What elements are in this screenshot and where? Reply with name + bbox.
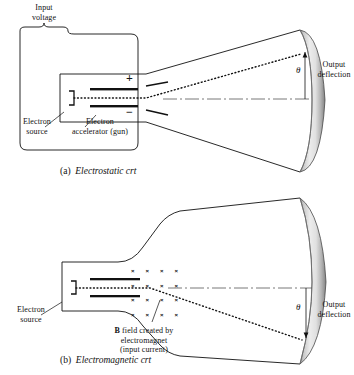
field-marker: × bbox=[131, 283, 135, 289]
screen-face bbox=[300, 30, 325, 172]
electron-source-symbol-b bbox=[71, 281, 76, 294]
cone-lower-edge bbox=[146, 122, 300, 172]
caption-b-tag: (b) bbox=[60, 355, 71, 365]
b-field-leader bbox=[152, 300, 160, 322]
field-marker: × bbox=[131, 312, 135, 318]
field-marker: × bbox=[175, 268, 179, 274]
lower-plate-lead bbox=[146, 110, 168, 115]
field-marker: × bbox=[175, 283, 179, 289]
b-field-line3: (input current) bbox=[120, 345, 168, 354]
electron-source-symbol bbox=[69, 91, 74, 105]
deflection-angle-label-b: θ bbox=[296, 303, 300, 312]
crt-figure: Inputvoltage + − Electronsource Electron… bbox=[0, 0, 354, 375]
upper-accelerator-plate-b bbox=[90, 278, 140, 280]
upper-plate-lead bbox=[146, 82, 168, 86]
field-marker: × bbox=[160, 297, 164, 303]
b-field-line1-rest: field created by bbox=[120, 326, 173, 335]
deflection-angle-label-a: θ bbox=[296, 66, 300, 75]
field-marker: × bbox=[160, 312, 164, 318]
field-marker: × bbox=[175, 312, 179, 318]
b-field-line2: electromagnet bbox=[121, 336, 168, 345]
electron-accelerator-label: Electronaccelerator (gun) bbox=[58, 117, 142, 136]
electron-source-label-b: Electronsource bbox=[5, 305, 57, 324]
field-marker: × bbox=[146, 283, 150, 289]
b-field-label: B field created byelectromagnet(input cu… bbox=[92, 326, 196, 355]
field-marker: × bbox=[146, 312, 150, 318]
input-voltage-label: Inputvoltage bbox=[16, 3, 72, 22]
upper-deflection-plate bbox=[90, 88, 138, 90]
output-deflection-label-b: Outputdeflection bbox=[312, 300, 354, 319]
electron-beam-path bbox=[74, 54, 301, 98]
field-marker: × bbox=[131, 297, 135, 303]
diagram-a-group bbox=[20, 23, 325, 172]
screen-face-b bbox=[300, 198, 326, 364]
output-deflection-label-a: Outputdeflection bbox=[312, 60, 354, 79]
caption-b-text: Electromagnetic crt bbox=[76, 355, 151, 365]
field-marker: × bbox=[131, 268, 135, 274]
caption-b: (b) Electromagnetic crt bbox=[60, 355, 151, 365]
input-voltage-bracket bbox=[20, 23, 68, 31]
field-marker: × bbox=[146, 297, 150, 303]
field-marker: × bbox=[175, 297, 179, 303]
field-marker: × bbox=[160, 283, 164, 289]
field-marker: × bbox=[160, 268, 164, 274]
deflection-arrowhead bbox=[303, 52, 308, 58]
positive-plate-sign: + bbox=[126, 72, 133, 84]
caption-a-tag: (a) bbox=[60, 166, 71, 176]
field-marker: × bbox=[146, 268, 150, 274]
caption-a-text: Electrostatic crt bbox=[75, 166, 136, 176]
cone-upper-edge bbox=[146, 30, 300, 74]
caption-a: (a) Electrostatic crt bbox=[60, 166, 136, 176]
tube-upper-profile-b bbox=[62, 198, 300, 262]
